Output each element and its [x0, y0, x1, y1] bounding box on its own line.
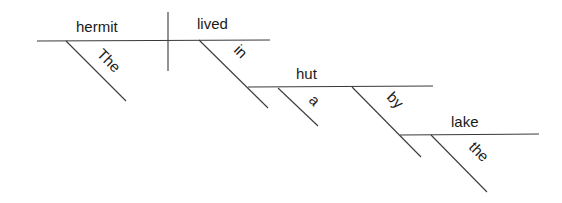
object-line-hut: [248, 86, 433, 87]
word-preposition-in: in: [231, 41, 251, 61]
word-object-hut: hut: [296, 65, 318, 82]
word-object-lake: lake: [451, 113, 479, 130]
word-modifier-the-lower: the: [466, 138, 493, 165]
word-verb: lived: [197, 15, 228, 32]
word-preposition-by: by: [384, 88, 408, 112]
sentence-diagram: hermit lived hut lake The in a by the: [0, 0, 562, 203]
word-modifier-a: a: [306, 91, 324, 109]
main-baseline: [37, 40, 270, 41]
modifier-line-the: [66, 41, 126, 101]
word-subject: hermit: [76, 18, 119, 35]
word-modifier-the: The: [94, 45, 124, 75]
object-line-lake: [400, 134, 539, 135]
diagram-canvas: hermit lived hut lake The in a by the: [0, 0, 562, 203]
